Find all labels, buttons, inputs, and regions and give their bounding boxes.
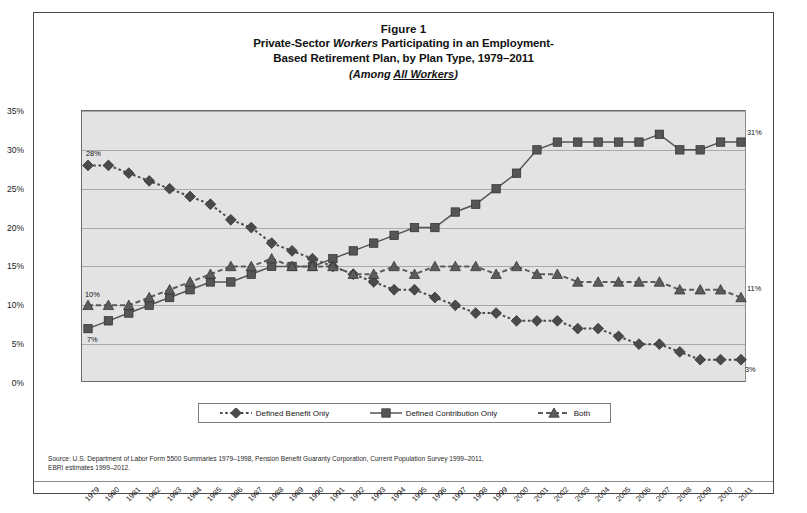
x-tick-1987: 1987 [243, 485, 265, 507]
plot-area: 0%5%10%15%20%25%30%35% 19791980198119821… [81, 110, 746, 382]
y-tick-10%: 10% [0, 300, 24, 310]
legend-label: Defined Benefit Only [256, 409, 329, 418]
x-tick-1997: 1997 [447, 485, 469, 507]
data-point [205, 199, 216, 210]
x-tick-1999: 1999 [488, 485, 510, 507]
both-start-label: 10% [85, 290, 100, 299]
x-tick-2001: 2001 [528, 485, 550, 507]
y-tick-5%: 5% [0, 339, 24, 349]
data-point [614, 138, 622, 146]
data-point [450, 300, 461, 311]
y-tick-25%: 25% [0, 184, 24, 194]
x-tick-1995: 1995 [406, 485, 428, 507]
data-point [83, 160, 94, 171]
legend-symbol-triangle-icon [537, 408, 571, 418]
x-tick-2010: 2010 [712, 485, 734, 507]
data-point [472, 200, 480, 208]
figure-number: Figure 1 [34, 22, 773, 36]
data-point [430, 292, 441, 303]
x-tick-1993: 1993 [365, 485, 387, 507]
data-point [389, 261, 399, 270]
data-point [572, 323, 583, 334]
data-point [593, 277, 603, 286]
source-divider [34, 481, 773, 482]
data-point [574, 138, 582, 146]
data-point [103, 160, 114, 171]
data-point [430, 261, 440, 270]
data-point [165, 293, 173, 301]
figure-title-line-1: Private-Sector Workers Participating in … [34, 36, 773, 51]
x-tick-1981: 1981 [120, 485, 142, 507]
data-point [553, 138, 561, 146]
x-tick-1983: 1983 [161, 485, 183, 507]
data-point [634, 339, 645, 350]
db-end-label: 3% [745, 365, 756, 374]
db-start-label: 28% [86, 149, 101, 158]
series-line [88, 259, 741, 306]
data-point [164, 183, 175, 194]
data-point [695, 354, 706, 365]
x-tick-1979: 1979 [79, 485, 101, 507]
x-tick-2011: 2011 [732, 485, 754, 507]
legend-item-diamond[interactable]: Defined Benefit Only [219, 408, 329, 418]
figure-subtitle: (Among All Workers) [34, 66, 773, 82]
x-tick-1992: 1992 [345, 485, 367, 507]
data-point [736, 354, 747, 365]
data-point [247, 270, 255, 278]
data-point [227, 278, 235, 286]
y-tick-15%: 15% [0, 261, 24, 271]
y-tick-35%: 35% [0, 106, 24, 116]
data-point [695, 285, 705, 294]
dc-end-label: 31% [747, 128, 762, 137]
figure-title-block: Figure 1 Private-Sector Workers Particip… [34, 22, 773, 82]
data-point [654, 277, 664, 286]
data-point [431, 223, 439, 231]
source-line-2: EBRI estimates 1999–2012. [48, 463, 748, 472]
series-line [88, 165, 741, 359]
data-point [206, 278, 214, 286]
legend-symbol-square-icon [369, 408, 403, 418]
legend-label: Both [574, 409, 590, 418]
data-point [185, 277, 195, 286]
x-tick-1985: 1985 [202, 485, 224, 507]
data-point [145, 301, 153, 309]
data-point [635, 138, 643, 146]
data-point [84, 324, 92, 332]
series-defined-contribution-only [84, 130, 745, 333]
y-tick-0%: 0% [0, 378, 24, 388]
data-point [511, 315, 522, 326]
x-tick-2006: 2006 [630, 485, 652, 507]
data-point [593, 323, 604, 334]
subtitle-tail: ) [454, 68, 458, 80]
data-point [266, 253, 276, 262]
x-tick-2003: 2003 [569, 485, 591, 507]
data-point [511, 261, 521, 270]
data-point [491, 308, 502, 319]
plot-inner: 0%5%10%15%20%25%30%35% 19791980198119821… [82, 111, 745, 381]
subtitle-underlined: All Workers [393, 68, 454, 80]
data-point [676, 146, 684, 154]
data-point [471, 261, 481, 270]
data-point [349, 247, 357, 255]
data-point [594, 138, 602, 146]
x-tick-1986: 1986 [222, 485, 244, 507]
data-point [552, 269, 562, 278]
data-point [512, 169, 520, 177]
data-point [410, 223, 418, 231]
x-tick-2004: 2004 [590, 485, 612, 507]
x-tick-2002: 2002 [549, 485, 571, 507]
y-tick-20%: 20% [0, 223, 24, 233]
data-point [123, 168, 134, 179]
data-point [532, 315, 543, 326]
source-line-1: Source: U.S. Department of Labor Form 55… [48, 454, 748, 463]
data-point [267, 262, 275, 270]
data-point [409, 284, 420, 295]
legend-item-triangle[interactable]: Both [537, 408, 590, 418]
x-tick-1988: 1988 [263, 485, 285, 507]
data-point [389, 284, 400, 295]
data-point [715, 354, 726, 365]
legend-item-square[interactable]: Defined Contribution Only [369, 408, 498, 418]
data-point [266, 238, 277, 249]
subtitle-lead: (Among [349, 68, 393, 80]
data-point [369, 239, 377, 247]
